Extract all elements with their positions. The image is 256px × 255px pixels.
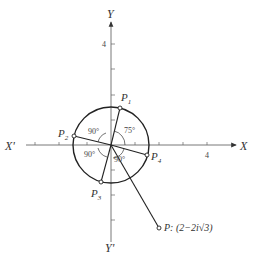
p1-label: P1 <box>120 91 131 106</box>
p-label: P: (2−2i√3) <box>163 222 213 234</box>
p2-label: P2 <box>57 127 69 142</box>
angle-90-label-lower-left: 90° <box>84 150 95 159</box>
radius-lines <box>74 108 159 228</box>
angle-75-label: 75° <box>124 126 135 135</box>
angle-90-label-upper: 90° <box>88 127 99 136</box>
complex-plane-diagram: X X' Y Y' 4 4 P1 P2 P3 P4 P: (2−2i√3) 75… <box>0 0 256 255</box>
y-pos-label: Y <box>107 7 115 21</box>
y-tick-label: 4 <box>102 40 106 49</box>
angle-90-label-lower-right: 90° <box>114 155 125 164</box>
p4-label: P4 <box>150 150 162 165</box>
p3-label: P3 <box>90 187 102 202</box>
x-tick-label: 4 <box>205 151 209 160</box>
x-pos-label: X <box>239 139 248 153</box>
x-ticks <box>35 142 207 145</box>
y-neg-label: Y' <box>105 241 115 255</box>
x-neg-label: X' <box>4 139 15 153</box>
